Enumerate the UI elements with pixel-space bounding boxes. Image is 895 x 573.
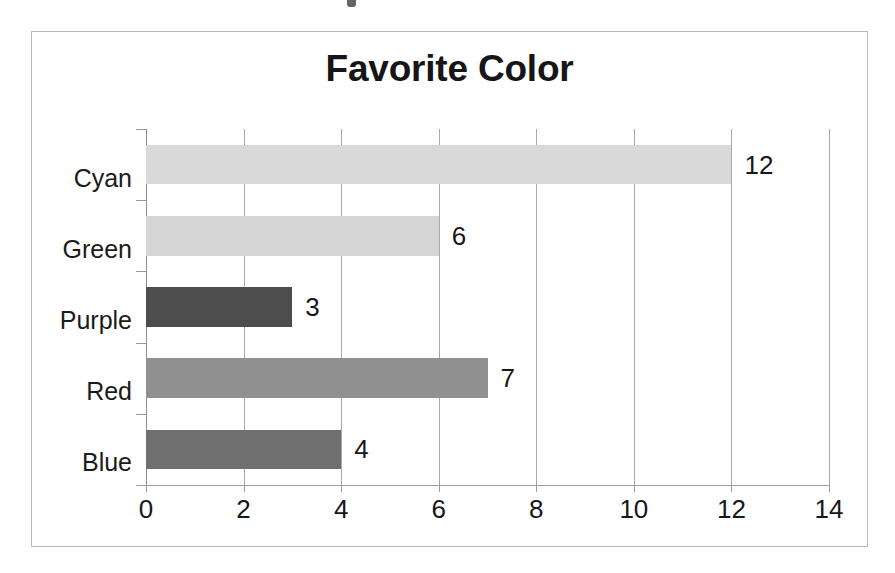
chart-title: Favorite Color bbox=[32, 48, 867, 90]
bar-cyan[interactable] bbox=[146, 145, 731, 185]
category-label-cyan: Cyan bbox=[74, 164, 132, 193]
scan-artifact bbox=[347, 0, 356, 7]
x-tick-8 bbox=[536, 485, 537, 492]
bar-value-blue: 4 bbox=[354, 434, 368, 465]
x-tick-4 bbox=[341, 485, 342, 492]
category-label-red: Red bbox=[86, 377, 132, 406]
category-label-blue: Blue bbox=[82, 448, 132, 477]
chart-frame: Favorite Color Cyan Green Purple Red Blu… bbox=[31, 31, 868, 547]
x-tick-12 bbox=[731, 485, 732, 492]
x-axis-line bbox=[136, 485, 829, 486]
bar-row: 3 bbox=[146, 287, 829, 327]
x-tick-label-14: 14 bbox=[815, 494, 844, 525]
bar-row: 6 bbox=[146, 216, 829, 256]
category-tick-purple bbox=[136, 271, 146, 272]
bar-row: 12 bbox=[146, 145, 829, 185]
x-tick-label-12: 12 bbox=[717, 494, 746, 525]
plot-area: 126374 bbox=[146, 129, 829, 485]
category-tick-blue bbox=[136, 414, 146, 415]
bar-purple[interactable] bbox=[146, 287, 292, 327]
x-tick-label-2: 2 bbox=[236, 494, 250, 525]
bar-value-green: 6 bbox=[452, 220, 466, 251]
bar-value-purple: 3 bbox=[305, 291, 319, 322]
x-tick-6 bbox=[439, 485, 440, 492]
bar-blue[interactable] bbox=[146, 430, 341, 470]
bar-value-cyan: 12 bbox=[744, 149, 773, 180]
bar-row: 7 bbox=[146, 358, 829, 398]
gridline-14 bbox=[829, 129, 830, 485]
bar-red[interactable] bbox=[146, 358, 488, 398]
x-axis-tick-labels: 02468101214 bbox=[146, 494, 829, 534]
category-tick-top bbox=[136, 129, 146, 130]
x-tick-14 bbox=[829, 485, 830, 492]
category-tick-red bbox=[136, 343, 146, 344]
bar-value-red: 7 bbox=[501, 363, 515, 394]
category-tick-green bbox=[136, 200, 146, 201]
x-tick-label-8: 8 bbox=[529, 494, 543, 525]
x-tick-10 bbox=[634, 485, 635, 492]
category-label-green: Green bbox=[63, 235, 132, 264]
x-tick-0 bbox=[146, 485, 147, 492]
bar-green[interactable] bbox=[146, 216, 439, 256]
x-tick-label-10: 10 bbox=[619, 494, 648, 525]
bar-row: 4 bbox=[146, 430, 829, 470]
x-tick-label-4: 4 bbox=[334, 494, 348, 525]
x-tick-2 bbox=[244, 485, 245, 492]
x-tick-label-6: 6 bbox=[431, 494, 445, 525]
category-label-purple: Purple bbox=[60, 306, 132, 335]
x-tick-label-0: 0 bbox=[139, 494, 153, 525]
category-axis-labels: Cyan Green Purple Red Blue bbox=[32, 129, 132, 485]
